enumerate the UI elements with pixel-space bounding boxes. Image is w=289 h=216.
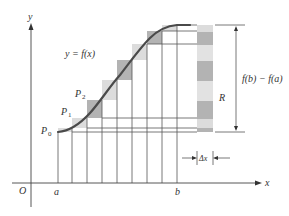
point-P2: P 2 (74, 88, 86, 101)
point-subscript: 1 (68, 111, 72, 119)
width-arrow-right-icon (192, 156, 197, 160)
point-P1: P 1 (60, 106, 72, 119)
y-axis-arrow-icon (29, 23, 34, 30)
dimension-arrow-down-icon (234, 126, 238, 131)
y-axis-label: y (27, 11, 33, 22)
strip-label: R (218, 92, 225, 103)
a-label: a (54, 186, 59, 197)
x-axis-label: x (264, 177, 270, 188)
dimension-arrow-up-icon (234, 26, 238, 31)
curve-label: y = f(x) (64, 48, 96, 60)
height-dimension (215, 25, 245, 132)
point-label: P (40, 125, 47, 136)
x-axis-arrow-icon (255, 181, 262, 186)
point-subscript: 2 (82, 93, 86, 101)
origin-label: O (19, 185, 26, 196)
point-subscript: 0 (48, 130, 52, 138)
b-label: b (175, 186, 180, 197)
width-label: Δx (198, 154, 208, 163)
riemann-strip-diagram: y x O a b y = f(x) P 0 P 1 P 2 f(b) − f(… (0, 0, 289, 216)
height-label: f(b) − f(a) (242, 73, 283, 85)
point-label: P (74, 88, 81, 99)
point-label: P (60, 106, 67, 117)
point-P0: P 0 (40, 125, 52, 138)
width-arrow-left-icon (213, 156, 218, 160)
strip-R (197, 25, 213, 132)
